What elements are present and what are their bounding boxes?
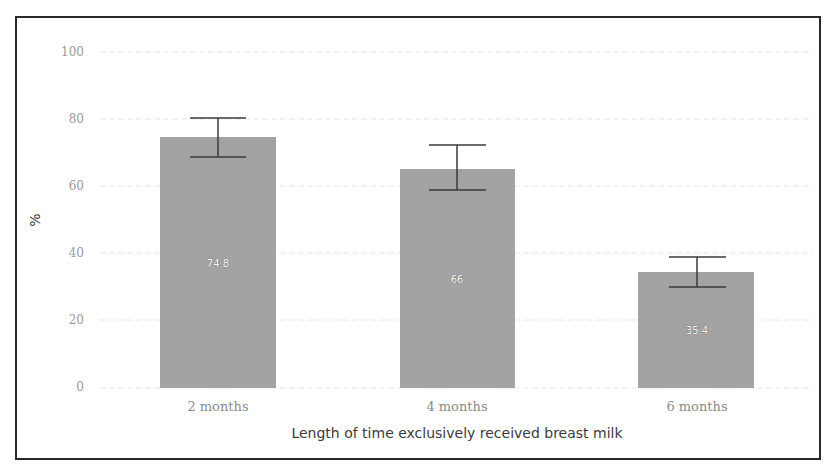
y-tick-60: 60: [69, 179, 84, 193]
bar-chart: 100 80 60 40 20 0 % 74.8 66: [0, 0, 835, 474]
x-axis-categories: 2 months 4 months 6 months: [187, 399, 727, 414]
y-axis-ticks: 100 80 60 40 20 0: [61, 45, 84, 394]
y-tick-20: 20: [69, 313, 84, 327]
x-category-2-months: 2 months: [187, 399, 248, 414]
y-tick-100: 100: [61, 45, 84, 59]
data-label-6-months: 35.4: [686, 325, 708, 336]
x-category-4-months: 4 months: [426, 399, 487, 414]
y-tick-80: 80: [69, 112, 84, 126]
data-label-4-months: 66: [451, 274, 464, 285]
y-axis-title: %: [27, 213, 43, 226]
y-tick-0: 0: [76, 380, 84, 394]
data-label-2-months: 74.8: [207, 258, 229, 269]
x-axis-title: Length of time exclusively received brea…: [291, 425, 623, 441]
y-tick-40: 40: [69, 246, 84, 260]
x-category-6-months: 6 months: [666, 399, 727, 414]
